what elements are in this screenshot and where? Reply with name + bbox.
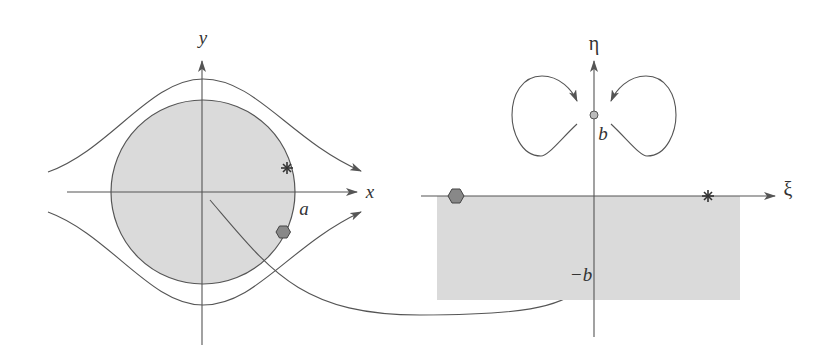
point-neg-b-label: −b xyxy=(570,265,592,284)
radius-label: a xyxy=(299,199,309,218)
left-loop xyxy=(512,76,577,156)
point-b-marker xyxy=(590,111,598,119)
y-axis-label: y xyxy=(199,28,207,47)
xi-axis-label: ξ xyxy=(784,179,793,199)
right-panel xyxy=(421,61,775,337)
left-panel xyxy=(48,61,361,345)
hexagon-marker-right xyxy=(448,189,464,203)
point-b-label: b xyxy=(598,124,608,143)
conformal-map-diagram xyxy=(0,0,830,355)
hexagon-marker-left xyxy=(276,226,291,238)
right-loop xyxy=(611,76,676,156)
eta-axis-label: η xyxy=(589,33,599,53)
x-axis-label: x xyxy=(366,182,374,201)
